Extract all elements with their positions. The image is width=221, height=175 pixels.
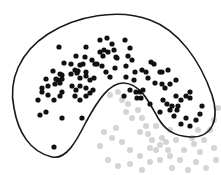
inside-point <box>72 93 77 98</box>
inside-point <box>109 41 114 46</box>
outside-point <box>143 123 149 129</box>
outside-point <box>169 165 175 171</box>
inside-point <box>83 85 88 90</box>
inside-point <box>167 81 172 86</box>
outside-point <box>177 157 183 163</box>
inside-point <box>59 115 64 120</box>
outside-point <box>181 147 187 153</box>
inside-point <box>173 77 178 82</box>
outside-point <box>123 109 129 115</box>
outside-point <box>137 129 143 135</box>
outside-point <box>167 153 173 159</box>
inside-point <box>111 47 116 52</box>
inside-point <box>169 103 174 108</box>
outside-point <box>139 115 145 121</box>
outside-point <box>105 157 111 163</box>
inside-point <box>83 69 88 74</box>
inside-point <box>39 89 44 94</box>
outside-point <box>109 135 115 141</box>
inside-point <box>100 53 105 58</box>
outside-point <box>185 167 191 173</box>
inside-point <box>74 70 79 75</box>
outside-point <box>211 145 217 151</box>
inside-point <box>59 89 64 94</box>
outside-point <box>113 125 119 131</box>
inside-point <box>143 69 148 74</box>
outside-point <box>101 129 107 135</box>
outside-points-group <box>97 89 221 173</box>
inside-point <box>152 80 157 85</box>
outside-point <box>129 115 135 121</box>
inside-point <box>123 74 128 79</box>
outside-point <box>107 92 113 98</box>
outside-point <box>137 153 143 159</box>
outside-point <box>189 135 195 141</box>
inside-point <box>125 53 130 58</box>
inside-point <box>43 76 48 81</box>
inside-point <box>183 115 188 120</box>
inside-point <box>132 69 137 74</box>
outside-point <box>147 145 153 151</box>
inside-point <box>162 85 167 90</box>
inside-point <box>59 76 64 81</box>
inside-point <box>178 97 183 102</box>
outside-point <box>165 147 171 153</box>
inside-point <box>127 45 132 50</box>
inside-point <box>99 63 104 68</box>
scatter-region-diagram <box>0 0 221 175</box>
inside-point <box>68 71 73 76</box>
outside-point <box>127 147 133 153</box>
inside-point <box>171 113 176 118</box>
inside-point <box>73 87 78 92</box>
inside-point <box>122 37 127 42</box>
inside-point <box>51 144 56 149</box>
inside-point <box>138 95 143 100</box>
inside-point <box>61 60 66 65</box>
inside-point <box>131 77 136 82</box>
inside-point <box>103 69 108 74</box>
outside-point <box>173 137 179 143</box>
inside-point <box>82 54 87 59</box>
inside-point <box>45 83 50 88</box>
inside-point <box>151 61 156 66</box>
inside-point <box>187 123 192 128</box>
outside-point <box>213 157 219 163</box>
inside-point <box>77 83 82 88</box>
inside-point <box>157 109 162 114</box>
outside-point <box>115 163 121 169</box>
outside-point <box>139 167 145 173</box>
outside-point <box>153 147 159 153</box>
inside-point <box>105 49 110 54</box>
outside-point <box>125 101 131 107</box>
inside-point <box>83 44 88 49</box>
inside-point <box>68 61 73 66</box>
inside-point <box>112 65 117 70</box>
inside-point <box>113 54 118 59</box>
outside-point <box>197 149 203 155</box>
inside-point <box>178 121 183 126</box>
inside-point <box>50 68 55 73</box>
inside-point <box>173 93 178 98</box>
inside-point <box>160 97 165 102</box>
inside-point <box>107 74 112 79</box>
inside-point <box>91 75 96 80</box>
outside-point <box>201 137 207 143</box>
inside-point <box>35 97 40 102</box>
inside-point <box>197 111 202 116</box>
inside-point <box>77 75 82 80</box>
inside-point <box>97 37 102 42</box>
inside-point <box>90 87 95 92</box>
inside-point <box>104 35 109 40</box>
inside-point <box>45 92 50 97</box>
inside-point <box>79 115 84 120</box>
inside-point <box>159 69 164 74</box>
inside-point <box>123 63 128 68</box>
outside-point <box>119 139 125 145</box>
inside-point <box>174 107 179 112</box>
outside-point <box>115 89 121 95</box>
inside-point <box>69 83 74 88</box>
inside-point <box>145 75 150 80</box>
inside-point <box>121 93 126 98</box>
inside-point <box>193 117 198 122</box>
outside-point <box>157 157 163 163</box>
